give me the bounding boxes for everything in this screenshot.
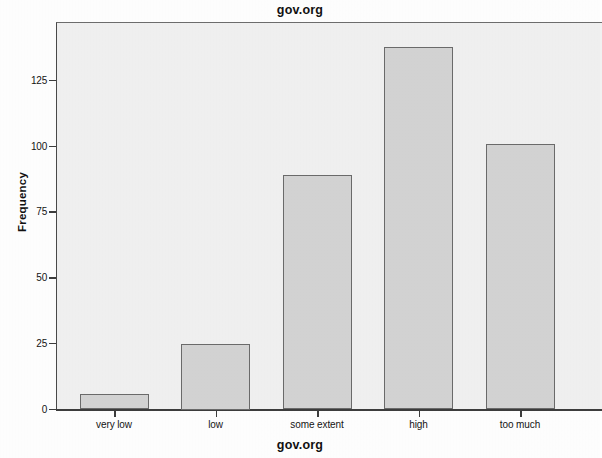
y-axis-tick-label: 100 — [31, 141, 47, 153]
x-axis-title: gov.org — [0, 438, 600, 452]
y-axis-tick-mark — [49, 277, 56, 279]
y-axis-tick-mark — [49, 343, 56, 345]
y-axis-tick: 25 — [0, 338, 56, 350]
y-axis-tick-mark — [49, 409, 56, 411]
y-axis-tick-label: 75 — [36, 206, 47, 218]
y-axis-tick-label: 125 — [31, 75, 47, 87]
y-axis-tick-label: 0 — [42, 404, 47, 416]
bar — [283, 175, 352, 409]
bar — [80, 394, 149, 410]
y-axis-tick: 100 — [0, 141, 56, 153]
x-axis-tick-mark — [216, 410, 218, 417]
y-axis-tick-label: 25 — [36, 338, 47, 350]
x-axis-tick-mark — [317, 410, 319, 417]
x-axis-tick-mark — [114, 410, 116, 417]
y-axis-tick: 0 — [0, 404, 56, 416]
y-axis-tick: 125 — [0, 75, 56, 87]
bar — [486, 144, 555, 410]
bar — [384, 47, 453, 410]
y-axis-tick: 75 — [0, 206, 56, 218]
y-axis-tick: 50 — [0, 272, 56, 284]
chart-title: gov.org — [0, 3, 600, 17]
x-axis-tick-label: too much — [460, 419, 580, 430]
y-axis-tick-label: 50 — [36, 272, 47, 284]
y-axis-tick-mark — [49, 211, 56, 213]
y-axis-tick-mark — [49, 80, 56, 82]
bar — [181, 344, 250, 410]
x-axis-tick-mark — [419, 410, 421, 417]
y-axis-tick-mark — [49, 146, 56, 148]
x-axis-tick-mark — [520, 410, 522, 417]
y-axis-title: Frequency — [16, 122, 28, 282]
